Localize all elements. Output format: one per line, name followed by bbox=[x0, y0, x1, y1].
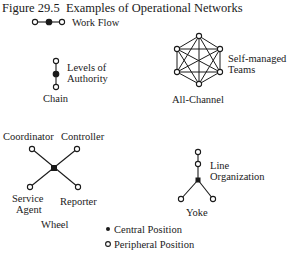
work-flow-label: Work Flow bbox=[72, 17, 119, 28]
yoke-side-label-1: Line bbox=[210, 160, 229, 171]
legend-central-label: Central Position bbox=[114, 224, 182, 235]
chain-network-icon bbox=[53, 58, 59, 89]
chain-name: Chain bbox=[43, 93, 68, 104]
all-channel-network-icon bbox=[174, 33, 222, 86]
chain-side-label-1: Levels of bbox=[67, 62, 106, 73]
wheel-name: Wheel bbox=[41, 219, 68, 230]
chain-side-label-2: Authority bbox=[67, 73, 108, 84]
all-channel-name: All-Channel bbox=[172, 94, 224, 105]
wheel-network-icon bbox=[27, 146, 80, 189]
network-diagrams bbox=[0, 0, 288, 254]
central-position-icon bbox=[106, 227, 110, 231]
wheel-label-controller: Controller bbox=[61, 131, 104, 142]
wheel-label-reporter: Reporter bbox=[60, 196, 97, 207]
yoke-name: Yoke bbox=[186, 207, 208, 218]
all-channel-side-label-1: Self-managed bbox=[228, 53, 286, 64]
wheel-label-coordinator: Coordinator bbox=[3, 131, 54, 142]
yoke-side-label-2: Organization bbox=[210, 171, 265, 182]
peripheral-position-icon bbox=[106, 242, 111, 247]
wheel-label-service: Service bbox=[12, 193, 44, 204]
wheel-label-agent: Agent bbox=[16, 204, 42, 215]
all-channel-side-label-2: Teams bbox=[228, 64, 255, 75]
work-flow-icon bbox=[32, 19, 64, 25]
legend-peripheral-label: Peripheral Position bbox=[114, 239, 194, 250]
